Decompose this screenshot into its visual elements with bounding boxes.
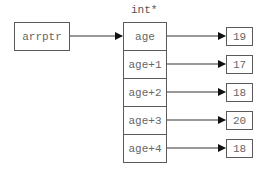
array-type-label: int*	[131, 4, 157, 16]
array-cell: age	[123, 22, 167, 51]
array-cell-label: age+1	[128, 59, 161, 71]
array-cell: age+4	[123, 134, 167, 163]
value-label: 20	[233, 115, 246, 127]
pointer-label: arrptr	[22, 31, 62, 43]
value-box: 18	[226, 83, 253, 102]
array-cell: age+1	[123, 50, 167, 79]
value-label: 19	[233, 31, 246, 43]
value-box: 19	[226, 27, 253, 46]
array-cell-label: age+4	[128, 143, 161, 155]
value-box: 17	[226, 55, 253, 74]
value-box: 18	[226, 139, 253, 158]
array-cell: age+3	[123, 106, 167, 135]
value-label: 17	[233, 59, 246, 71]
array-cell-label: age+2	[128, 87, 161, 99]
array-cell-label: age	[135, 31, 155, 43]
array-cell-label: age+3	[128, 115, 161, 127]
array-cell: age+2	[123, 78, 167, 107]
value-label: 18	[233, 87, 246, 99]
value-label: 18	[233, 143, 246, 155]
value-box: 20	[226, 111, 253, 130]
pointer-box: arrptr	[14, 22, 70, 51]
